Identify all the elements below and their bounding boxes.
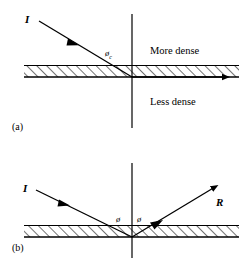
panel-b-incidence-angle-label: ø bbox=[116, 215, 120, 224]
optics-figure: I øc More dense Less dense (a) I R ø ø (… bbox=[0, 0, 239, 272]
panel-b-reflected-ray-label: R bbox=[216, 197, 223, 208]
panel-a-incident-arrowhead bbox=[67, 39, 80, 46]
panel-a-incident-ray-label: I bbox=[25, 14, 29, 25]
panel-b-id: (b) bbox=[12, 243, 24, 253]
panel-b-incident-ray-label: I bbox=[23, 183, 27, 194]
upper-medium-label: More dense bbox=[150, 46, 199, 57]
panel-a-id: (a) bbox=[12, 122, 23, 132]
panel-a-angle-subscript: c bbox=[109, 54, 112, 60]
diagram-canvas bbox=[0, 0, 239, 272]
panel-b-reflection-angle-label: ø bbox=[137, 215, 141, 224]
panel-a-critical-angle-label: øc bbox=[105, 49, 112, 60]
panel-b-incident-arrowhead bbox=[58, 200, 71, 207]
lower-medium-label: Less dense bbox=[150, 97, 196, 108]
